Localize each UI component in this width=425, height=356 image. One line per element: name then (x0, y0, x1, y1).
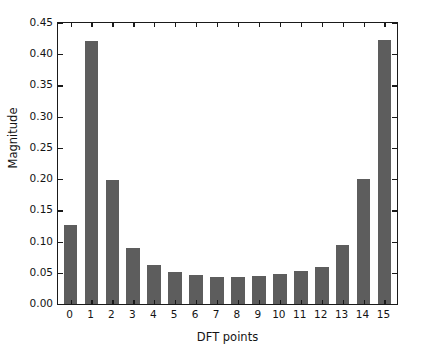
bar (378, 40, 392, 304)
x-tick-mark-top (301, 23, 302, 27)
y-tick-mark-right (392, 273, 397, 274)
y-tick-mark-right (392, 210, 397, 211)
y-tick-mark-right (392, 179, 397, 180)
x-tick-mark-top (217, 23, 218, 27)
bar (85, 41, 99, 305)
bar (64, 225, 78, 304)
y-tick-mark (58, 273, 63, 274)
x-tick-mark (175, 300, 176, 304)
x-tick-mark-top (259, 23, 260, 27)
x-tick-mark-top (196, 23, 197, 27)
x-tick-mark (217, 300, 218, 304)
plot-area (57, 22, 398, 305)
x-tick-label: 2 (108, 309, 115, 320)
x-tick-mark (112, 300, 113, 304)
x-tick-mark-top (91, 23, 92, 27)
x-axis-title: DFT points (57, 330, 398, 344)
x-tick-mark (259, 300, 260, 304)
y-tick-mark-right (392, 304, 397, 305)
y-tick-mark-right (392, 85, 397, 86)
x-tick-label: 14 (356, 309, 369, 320)
bar (336, 245, 350, 304)
y-tick-mark-right (392, 242, 397, 243)
y-tick-label: 0.45 (30, 17, 53, 28)
y-tick-mark (58, 54, 63, 55)
x-tick-label: 4 (150, 309, 157, 320)
y-tick-mark-right (392, 54, 397, 55)
x-tick-mark-top (364, 23, 365, 27)
y-tick-label: 0.00 (30, 298, 53, 309)
y-tick-mark (58, 148, 63, 149)
x-tick-mark (71, 300, 72, 304)
bar (315, 267, 329, 304)
x-tick-mark (301, 300, 302, 304)
y-tick-mark-right (392, 23, 397, 24)
y-tick-mark-right (392, 148, 397, 149)
x-tick-mark (322, 300, 323, 304)
bar (357, 179, 371, 304)
x-tick-mark-top (384, 23, 385, 27)
x-tick-mark-top (112, 23, 113, 27)
x-tick-mark-top (343, 23, 344, 27)
x-tick-label: 9 (255, 309, 262, 320)
y-axis-title: Magnitude (6, 78, 20, 198)
y-tick-mark (58, 210, 63, 211)
bar (147, 265, 161, 304)
bar (126, 248, 140, 304)
chart-figure: 0.000.050.100.150.200.250.300.350.400.45… (0, 0, 425, 356)
x-tick-label: 0 (66, 309, 73, 320)
x-tick-mark (384, 300, 385, 304)
y-tick-label: 0.30 (30, 111, 53, 122)
x-tick-mark (343, 300, 344, 304)
x-tick-mark (364, 300, 365, 304)
x-tick-label: 6 (192, 309, 199, 320)
x-tick-label: 8 (234, 309, 241, 320)
x-tick-mark-top (238, 23, 239, 27)
x-tick-mark (91, 300, 92, 304)
x-tick-label: 12 (314, 309, 327, 320)
x-tick-label: 3 (129, 309, 136, 320)
x-tick-mark-top (71, 23, 72, 27)
y-tick-mark (58, 242, 63, 243)
y-tick-mark (58, 304, 63, 305)
y-tick-label: 0.20 (30, 173, 53, 184)
x-tick-mark-top (175, 23, 176, 27)
x-tick-mark-top (322, 23, 323, 27)
x-tick-label: 10 (272, 309, 285, 320)
y-tick-mark-right (392, 117, 397, 118)
y-tick-label: 0.40 (30, 48, 53, 59)
y-tick-mark (58, 85, 63, 86)
y-tick-label: 0.15 (30, 204, 53, 215)
x-tick-mark (280, 300, 281, 304)
x-tick-mark (133, 300, 134, 304)
x-tick-mark (196, 300, 197, 304)
x-tick-mark-top (154, 23, 155, 27)
y-tick-label: 0.35 (30, 79, 53, 90)
bars-layer (58, 23, 397, 304)
x-tick-label: 15 (377, 309, 390, 320)
x-tick-label: 11 (293, 309, 306, 320)
y-tick-label: 0.10 (30, 236, 53, 247)
x-tick-mark (238, 300, 239, 304)
x-tick-label: 5 (171, 309, 178, 320)
x-tick-label: 7 (213, 309, 220, 320)
x-axis-tick-labels: 0123456789101112131415 (57, 309, 398, 325)
y-tick-mark (58, 23, 63, 24)
x-tick-mark-top (133, 23, 134, 27)
x-tick-mark (154, 300, 155, 304)
x-tick-mark-top (280, 23, 281, 27)
y-tick-mark (58, 179, 63, 180)
bar (106, 180, 120, 304)
y-tick-label: 0.25 (30, 142, 53, 153)
y-tick-mark (58, 117, 63, 118)
x-tick-label: 1 (87, 309, 94, 320)
y-tick-label: 0.05 (30, 267, 53, 278)
x-tick-label: 13 (335, 309, 348, 320)
